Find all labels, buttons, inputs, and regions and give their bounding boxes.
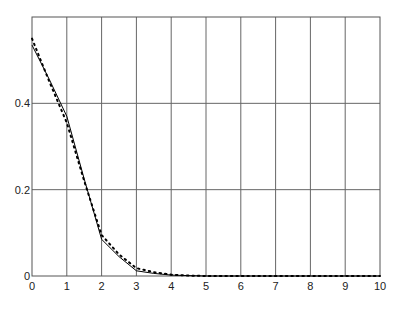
x-tick-label: 4 [168, 280, 174, 292]
y-tick-label: 0.2 [15, 184, 30, 196]
x-tick-label: 8 [307, 280, 313, 292]
line-chart: 012345678910 00.20.4 [0, 0, 400, 310]
x-tick-label: 2 [99, 280, 105, 292]
y-tick-label: 0.4 [15, 97, 30, 109]
x-tick-label: 6 [238, 280, 244, 292]
x-tick-label: 3 [133, 280, 139, 292]
x-axis-ticks: 012345678910 [29, 280, 386, 292]
x-tick-label: 10 [374, 280, 386, 292]
y-tick-label: 0 [24, 270, 30, 282]
y-axis-ticks: 00.20.4 [15, 97, 30, 282]
x-tick-label: 7 [273, 280, 279, 292]
grid-lines [32, 17, 380, 276]
x-tick-label: 5 [203, 280, 209, 292]
x-tick-label: 9 [342, 280, 348, 292]
x-tick-label: 1 [64, 280, 70, 292]
